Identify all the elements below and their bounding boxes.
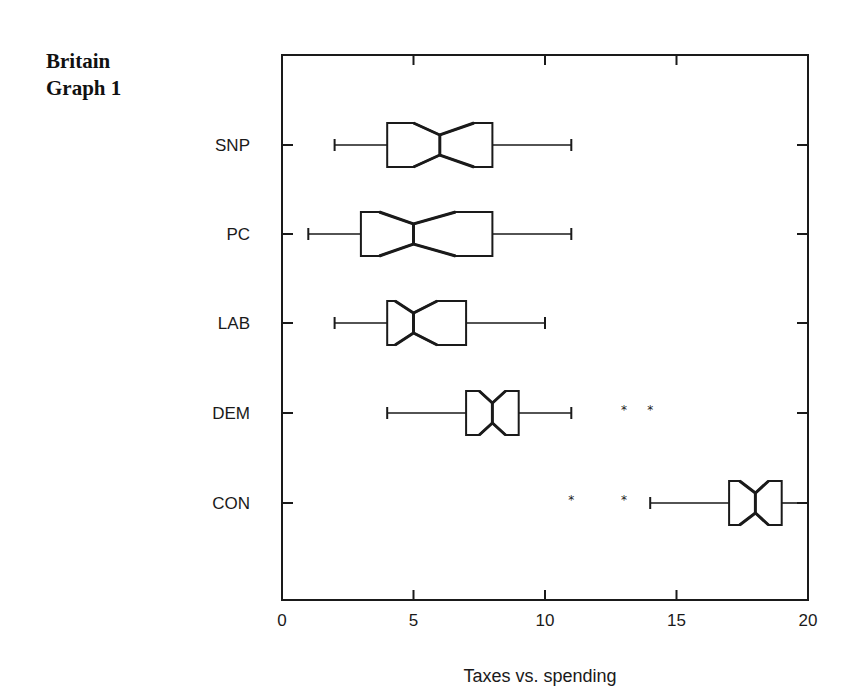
notch-top xyxy=(379,212,455,224)
x-tick-label: 20 xyxy=(799,611,818,630)
x-axis-ticks: 05101520 xyxy=(277,55,817,630)
y-axis-ticks: SNPPCLABDEMCON xyxy=(212,136,808,513)
outlier-marker: * xyxy=(568,493,574,507)
box-snp xyxy=(335,123,572,167)
notch-top xyxy=(479,391,505,403)
box-con: ** xyxy=(568,481,808,525)
notch-top xyxy=(740,481,769,493)
box-lab xyxy=(335,301,545,345)
notch-bottom xyxy=(740,513,769,525)
outlier-marker: * xyxy=(647,403,653,417)
category-label: LAB xyxy=(218,314,250,333)
category-label: CON xyxy=(212,494,250,513)
notch-top xyxy=(414,123,474,135)
notch-bottom xyxy=(379,244,455,256)
x-tick-label: 0 xyxy=(277,611,286,630)
category-label: SNP xyxy=(215,136,250,155)
notched-box xyxy=(361,212,493,256)
category-label: PC xyxy=(226,225,250,244)
box-pc xyxy=(308,212,571,256)
notch-bottom xyxy=(395,333,437,345)
box-dem: ** xyxy=(387,391,653,435)
x-tick-label: 5 xyxy=(409,611,418,630)
outlier-marker: * xyxy=(621,403,627,417)
outlier-marker: * xyxy=(621,493,627,507)
boxplot-chart: 05101520 SNPPCLABDEMCON **** Taxes vs. s… xyxy=(0,0,860,686)
x-tick-label: 10 xyxy=(536,611,555,630)
notch-top xyxy=(395,301,437,313)
box-series: **** xyxy=(308,123,808,525)
notch-bottom xyxy=(479,423,505,435)
notch-bottom xyxy=(414,155,474,167)
x-tick-label: 15 xyxy=(667,611,686,630)
x-axis-label: Taxes vs. spending xyxy=(463,666,616,686)
category-label: DEM xyxy=(212,404,250,423)
